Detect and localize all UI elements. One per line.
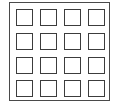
grid-cell bbox=[64, 57, 81, 74]
grid-cell bbox=[16, 9, 33, 26]
grid-cell bbox=[40, 9, 57, 26]
grid-cell bbox=[88, 57, 105, 74]
grid-cell bbox=[64, 9, 81, 26]
grid-cell bbox=[40, 57, 57, 74]
grid-cell bbox=[88, 33, 105, 50]
grid-cell bbox=[40, 80, 57, 97]
grid-cell bbox=[40, 33, 57, 50]
grid-cell bbox=[64, 33, 81, 50]
grid-cell bbox=[88, 9, 105, 26]
grid-cell bbox=[64, 80, 81, 97]
grid-cell bbox=[16, 57, 33, 74]
grid-cell bbox=[16, 33, 33, 50]
grid-cell bbox=[88, 80, 105, 97]
grid-cell bbox=[16, 80, 33, 97]
